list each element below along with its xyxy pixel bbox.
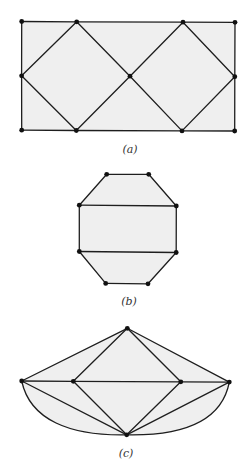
figure-a: (a): [19, 19, 237, 156]
figure-c: (c): [19, 326, 231, 460]
vertex-li: [71, 379, 76, 384]
vertex-bot: [124, 432, 129, 437]
vertex-p1: [104, 172, 109, 177]
vertex-p2: [146, 172, 151, 177]
vertex-bl: [19, 128, 24, 133]
vertex-t1: [74, 19, 79, 24]
graph-figures: (a) (b) (c): [0, 0, 249, 475]
vertex-mr: [232, 74, 237, 79]
vertex-p3: [77, 203, 82, 208]
vertex-br: [232, 129, 237, 134]
vertex-b3: [180, 129, 185, 134]
vertex-p8: [146, 281, 151, 286]
vertex-p6: [174, 250, 179, 255]
figure-b-face: [79, 174, 176, 283]
vertex-p4: [174, 204, 179, 209]
vertex-ri: [178, 379, 183, 384]
vertex-t3: [181, 20, 186, 25]
vertex-tl: [19, 19, 24, 24]
figure-b: (b): [77, 172, 179, 308]
edge-li-ri: [73, 381, 181, 382]
vertex-p7: [103, 281, 108, 286]
figure-a-caption: (a): [122, 143, 137, 156]
vertex-c: [128, 74, 133, 79]
vertex-top: [125, 326, 130, 331]
edge-p3-p4: [79, 205, 176, 206]
figure-b-caption: (b): [121, 295, 137, 308]
figure-c-caption: (c): [119, 447, 134, 460]
vertex-ml: [19, 73, 24, 78]
vertex-ro: [227, 380, 232, 385]
vertex-tr: [233, 20, 238, 25]
vertex-b1: [74, 128, 79, 133]
vertex-lo: [19, 379, 24, 384]
vertex-p5: [77, 249, 82, 254]
